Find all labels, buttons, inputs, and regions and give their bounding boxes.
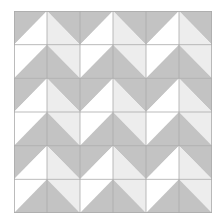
quilt-cell bbox=[179, 112, 212, 146]
quilt-cell bbox=[113, 179, 146, 213]
quilt-cell bbox=[80, 45, 113, 79]
quilt-cell bbox=[179, 78, 212, 112]
quilt-cell bbox=[113, 146, 146, 180]
quilt-cell bbox=[14, 11, 47, 45]
quilt-cell bbox=[80, 11, 113, 45]
quilt-cell bbox=[80, 78, 113, 112]
quilt-cell bbox=[146, 78, 179, 112]
quilt-cell bbox=[14, 179, 47, 213]
quilt-cell bbox=[146, 179, 179, 213]
half-square-triangle-quilt bbox=[14, 11, 212, 213]
quilt-cell bbox=[179, 11, 212, 45]
quilt-cell bbox=[14, 146, 47, 180]
quilt-cell bbox=[14, 112, 47, 146]
quilt-grid bbox=[14, 11, 212, 213]
quilt-cell bbox=[47, 179, 80, 213]
quilt-cell bbox=[113, 45, 146, 79]
quilt-cell bbox=[146, 146, 179, 180]
quilt-cell bbox=[80, 146, 113, 180]
quilt-cell bbox=[146, 11, 179, 45]
quilt-cell bbox=[47, 78, 80, 112]
quilt-cell bbox=[47, 11, 80, 45]
quilt-cell bbox=[80, 179, 113, 213]
quilt-cell bbox=[179, 146, 212, 180]
quilt-cell bbox=[113, 78, 146, 112]
quilt-cell bbox=[47, 146, 80, 180]
quilt-cell bbox=[14, 45, 47, 79]
quilt-cell bbox=[80, 112, 113, 146]
quilt-cell bbox=[47, 112, 80, 146]
quilt-cell bbox=[47, 45, 80, 79]
quilt-cell bbox=[113, 11, 146, 45]
quilt-cell bbox=[14, 78, 47, 112]
quilt-cell bbox=[179, 179, 212, 213]
quilt-cell bbox=[179, 45, 212, 79]
quilt-cell bbox=[146, 112, 179, 146]
quilt-cell bbox=[146, 45, 179, 79]
quilt-cell bbox=[113, 112, 146, 146]
